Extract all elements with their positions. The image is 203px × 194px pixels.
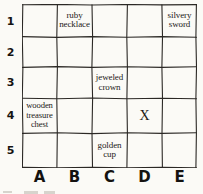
grid-cell-d2[interactable] [127, 37, 162, 67]
grid-cell-b5[interactable] [57, 133, 92, 167]
grid-cell-a5[interactable] [22, 133, 57, 167]
grid-cell-c5[interactable]: golden cup [92, 133, 127, 167]
grid-cell-e1[interactable]: silvery sword [162, 4, 197, 36]
grid-cell-a4-label: wooden treasure chest [22, 101, 57, 130]
scan-edge-artifact [0, 190, 203, 194]
treasure-x-marker: X [138, 109, 150, 123]
grid-cell-e3[interactable] [162, 67, 197, 98]
row-label-4: 4 [2, 110, 19, 121]
grid-cell-a1[interactable] [22, 4, 57, 36]
column-label-e: E [162, 170, 197, 185]
grid-cell-c3[interactable]: jeweled crown [92, 67, 127, 98]
grid-cell-a3[interactable] [22, 67, 57, 98]
grid-cell-c2[interactable] [92, 37, 127, 67]
row-label-5: 5 [2, 145, 19, 156]
row-label-2: 2 [2, 47, 19, 58]
grid-cell-b3[interactable] [57, 67, 92, 98]
row-label-3: 3 [2, 77, 19, 88]
grid-cell-c5-label: golden cup [92, 141, 127, 160]
column-label-c: C [92, 170, 127, 185]
grid-cell-d4[interactable]: X [127, 98, 162, 133]
grid-cell-e5[interactable] [162, 133, 197, 167]
grid-cell-b4[interactable] [57, 98, 92, 133]
column-label-a: A [22, 170, 57, 185]
grid-area: ruby necklace silvery sword [22, 4, 197, 168]
grid-cell-d5[interactable] [127, 133, 162, 167]
grid-cell-a4[interactable]: wooden treasure chest [22, 98, 57, 133]
grid-cell-d1[interactable] [127, 4, 162, 36]
grid-cell-b1[interactable]: ruby necklace [57, 4, 92, 36]
grid-cell-a2[interactable] [22, 37, 57, 67]
grid-cell-c1[interactable] [92, 4, 127, 36]
grid-cell-d3[interactable] [127, 67, 162, 98]
column-label-b: B [57, 170, 92, 185]
grid-cell-c3-label: jeweled crown [92, 73, 127, 92]
grid-cell-c4[interactable] [92, 98, 127, 133]
treasure-map-grid: 1 2 3 4 5 A B C D E [0, 0, 203, 194]
grid-cell-b2[interactable] [57, 37, 92, 67]
grid-cell-e4[interactable] [162, 98, 197, 133]
grid-cell-e2[interactable] [162, 37, 197, 67]
grid-cell-b1-label: ruby necklace [57, 11, 92, 30]
row-label-1: 1 [2, 16, 19, 27]
column-label-d: D [127, 170, 162, 185]
grid-cell-e1-label: silvery sword [162, 11, 197, 30]
